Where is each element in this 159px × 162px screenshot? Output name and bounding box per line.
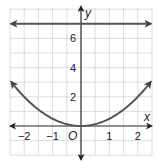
x-tick-label: 1	[106, 130, 112, 142]
x-tick-label: −2	[18, 130, 31, 142]
origin-label: O	[68, 129, 77, 143]
x-axis-label: x	[143, 110, 151, 124]
y-axis-label: y	[84, 6, 92, 20]
y-tick-label: 4	[70, 62, 76, 74]
x-tick-label: −1	[46, 130, 59, 142]
graph: x y O −2−112246	[0, 0, 159, 162]
y-tick-label: 6	[70, 32, 76, 44]
x-tick-label: 2	[135, 130, 141, 142]
y-tick-label: 2	[70, 91, 76, 103]
